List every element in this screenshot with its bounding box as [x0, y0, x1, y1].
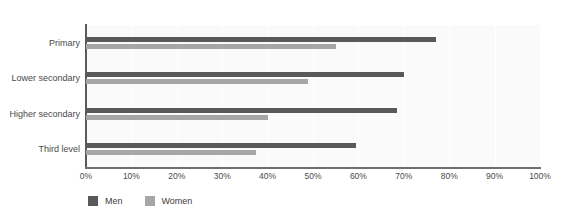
legend-swatch-women: [145, 196, 155, 206]
x-tick-label: 60%: [338, 170, 378, 182]
y-axis-label: Primary: [2, 38, 80, 48]
x-tick-label: 10%: [111, 170, 151, 182]
x-tick-label: 40%: [248, 170, 288, 182]
bar-women-primary: [86, 44, 336, 49]
gridline: [358, 25, 359, 167]
bar-chart: PrimaryLower secondaryHigher secondaryTh…: [0, 0, 565, 224]
gridline: [495, 25, 496, 167]
x-axis-tick-labels: 0%10%20%30%40%50%60%70%80%90%100%: [0, 170, 565, 184]
bar-men-higher-secondary: [86, 108, 397, 113]
gridline: [449, 25, 450, 167]
bar-women-lower-secondary: [86, 79, 308, 84]
x-tick-label: 90%: [475, 170, 515, 182]
x-tick-label: 100%: [520, 170, 560, 182]
clipped-caption: [0, 0, 565, 9]
legend-item[interactable]: Women: [145, 196, 193, 206]
y-axis-labels: PrimaryLower secondaryHigher secondaryTh…: [0, 25, 80, 167]
x-tick-label: 30%: [202, 170, 242, 182]
gridline: [540, 25, 541, 167]
bar-men-third-level: [86, 143, 356, 148]
bar-women-third-level: [86, 150, 256, 155]
x-tick-label: 20%: [157, 170, 197, 182]
x-axis-line: [85, 167, 541, 169]
bar-women-higher-secondary: [86, 115, 268, 120]
legend-label: Women: [162, 196, 193, 206]
bar-men-primary: [86, 37, 436, 42]
chart-legend: MenWomen: [88, 194, 214, 208]
y-axis-label: Higher secondary: [2, 109, 80, 119]
y-axis-label: Lower secondary: [2, 73, 80, 83]
x-tick-label: 50%: [293, 170, 333, 182]
gridline: [404, 25, 405, 167]
x-tick-label: 0%: [66, 170, 106, 182]
bar-men-lower-secondary: [86, 72, 404, 77]
x-tick-label: 80%: [429, 170, 469, 182]
legend-label: Men: [105, 196, 123, 206]
x-tick-label: 70%: [384, 170, 424, 182]
legend-item[interactable]: Men: [88, 196, 123, 206]
y-axis-label: Third level: [2, 144, 80, 154]
legend-swatch-men: [88, 196, 98, 206]
